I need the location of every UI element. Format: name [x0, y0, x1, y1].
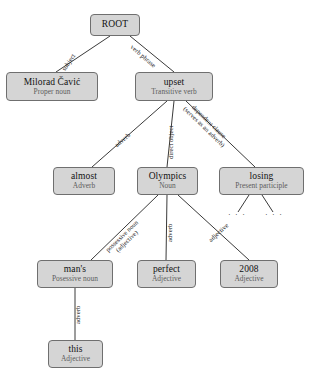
node-this-pos: Adjective [61, 355, 90, 363]
ellipsis-right: · · · [265, 210, 283, 219]
node-olympics[interactable]: Olympics Noun [137, 167, 198, 195]
node-losing-pos: Present participle [235, 182, 287, 190]
parse-tree-diagram: ROOT Milorad Čavić Proper noun upset Tra… [0, 0, 320, 385]
edge-label-adverb-olympics-perfect: adverb [166, 224, 173, 242]
node-this[interactable]: this Adjective [48, 340, 103, 368]
edge-label-direct-object: direct object [167, 126, 174, 159]
node-mans[interactable]: man's Posessive noun [37, 260, 113, 288]
edge-label-adverb-mans-this: adverb [74, 306, 81, 324]
node-root-word: ROOT [102, 20, 128, 30]
edge-olympics-2008 [178, 195, 249, 260]
node-upset-word: upset [164, 78, 185, 88]
node-perfect-pos: Adjective [152, 275, 181, 283]
ellipsis-left: · · · [228, 210, 246, 219]
node-milorad-cavic-word: Milorad Čavić [24, 78, 80, 88]
node-losing[interactable]: losing Present participle [219, 167, 304, 195]
node-olympics-pos: Noun [159, 182, 176, 190]
node-milorad-cavic-pos: Proper noun [34, 88, 71, 96]
node-2008[interactable]: 2008 Adjective [220, 260, 278, 288]
node-2008-pos: Adjective [234, 275, 263, 283]
node-root[interactable]: ROOT [90, 14, 140, 36]
node-almost[interactable]: almost Adverb [53, 167, 115, 195]
node-upset[interactable]: upset Transitive verb [135, 72, 213, 101]
node-upset-pos: Transitive verb [151, 88, 196, 96]
node-milorad-cavic[interactable]: Milorad Čavić Proper noun [6, 72, 98, 101]
node-almost-pos: Adverb [73, 182, 95, 190]
node-perfect[interactable]: perfect Adjective [137, 260, 196, 288]
node-mans-pos: Posessive noun [52, 275, 98, 283]
